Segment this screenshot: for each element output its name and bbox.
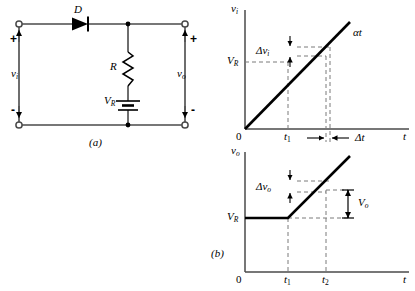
graph-bottom-axes [245,152,409,272]
graph-bottom-amp-label: Vo [358,197,368,209]
graph-bottom-yaxis-label: vo [231,145,240,157]
resistor-label: R [110,61,117,72]
graph-top-ramp-curve [245,22,350,129]
vo-measure-bracket [342,190,354,218]
junction-dot-top [126,22,131,27]
figure-diode-clipper: D R VR vi vo + - + - (a) vi t 0 VR αt Δv… [0,0,415,291]
graph-top-dashes [245,47,330,142]
graph-bottom-clamp-label: VR [227,211,238,223]
graph-bottom-dashes [288,181,348,272]
output-plus-sign: + [190,33,197,45]
graph-top-axes [245,10,409,129]
output-minus-sign: - [191,104,195,116]
output-voltage-label: vo [177,68,186,80]
input-voltage-label: vi [11,68,18,80]
figure-vector-layer [0,0,415,291]
panel-b-label: (b) [211,248,224,259]
graph-bottom-tick-t1-label: t1 [284,274,291,286]
terminal-nodes [16,21,188,128]
diode-label: D [74,4,82,15]
terminal-output-bottom [182,122,188,128]
graph-bottom-origin-label: 0 [236,274,242,285]
graph-top-threshold-label: VR [227,55,238,67]
graph-bottom-tick-t2-label: t2 [322,274,329,286]
graph-top-slope-label: αt [353,27,362,38]
terminal-input-bottom [16,122,22,128]
input-minus-sign: - [11,104,15,116]
battery-icon [116,101,140,110]
graph-top-yaxis-label: vi [231,3,238,15]
graph-top-delta-vi-label: Δvi [256,45,269,57]
panel-a-label: (a) [89,137,102,148]
graph-top-delta-t-label: Δt [355,132,365,143]
terminal-output-top [182,21,188,27]
graph-top-origin-label: 0 [236,131,242,142]
battery-label: VR [104,95,115,107]
graph-top-xaxis-label: t [403,131,406,142]
circuit-wires [19,24,185,125]
graph-bottom-xaxis-label: t [403,274,406,285]
diode-icon [72,17,88,32]
junction-dot-bottom [126,123,131,128]
graph-top-tick-t1-label: t1 [284,131,291,143]
input-plus-sign: + [10,33,17,45]
resistor-icon [123,52,133,86]
graph-bottom-delta-vo-label: Δvo [256,181,271,193]
terminal-input-top [16,21,22,27]
